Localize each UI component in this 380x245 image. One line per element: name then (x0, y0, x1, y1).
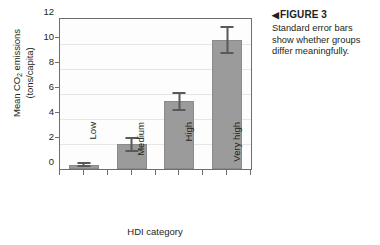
error-bar (221, 26, 234, 54)
y-axis-tick-label: 12 (34, 7, 54, 17)
error-bar-stem (226, 26, 228, 54)
y-axis-tick-label: 10 (34, 32, 54, 42)
x-axis-category-labels: LowMediumHighVery high (59, 174, 251, 224)
figure-caption-title: FIGURE 3 (280, 9, 327, 20)
error-bar (173, 92, 186, 111)
figure-3: Mean CO2 emissions (tons/capita) 0246810… (0, 0, 380, 245)
y-axis-tick-labels: 024681012 (34, 12, 54, 168)
x-axis-category-label: Very high (231, 122, 243, 174)
y-axis-tick-label: 2 (34, 132, 54, 142)
y-axis-tick-label: 6 (34, 82, 54, 92)
x-axis-category-label: Low (87, 122, 99, 174)
figure-caption-text: Standard error bars show whether groups … (272, 23, 376, 58)
figure-caption-heading: ◀FIGURE 3 (272, 8, 376, 22)
y-axis-tick-label: 8 (34, 57, 54, 67)
y-axis-title-subscript: 2 (15, 73, 24, 77)
y-axis-tick-label: 4 (34, 107, 54, 117)
x-axis-category-label: Medium (135, 122, 147, 174)
error-bar-cap (173, 92, 186, 94)
bar-group (203, 19, 251, 169)
x-axis-title: HDI category (59, 226, 251, 237)
error-bar-cap (221, 26, 234, 28)
error-bar-stem (178, 92, 180, 111)
error-bar-cap (221, 52, 234, 54)
bar-group (156, 19, 204, 169)
x-axis-category-label: High (183, 122, 195, 174)
bar-group (60, 19, 108, 169)
figure-caption: ◀FIGURE 3 Standard error bars show wheth… (272, 8, 376, 58)
error-bar-cap (173, 109, 186, 111)
y-axis-tick-label: 0 (34, 157, 54, 167)
left-triangle-icon: ◀ (272, 10, 279, 20)
bar-group (108, 19, 156, 169)
bar-chart: Mean CO2 emissions (tons/capita) 0246810… (0, 0, 262, 245)
y-axis-title-line1: Mean CO2 emissions (11, 0, 24, 148)
